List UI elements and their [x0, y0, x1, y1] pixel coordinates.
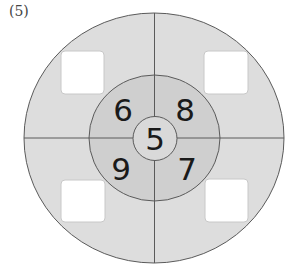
- inner-number-bottom-right: 7: [177, 151, 197, 187]
- inner-number-top-right: 8: [175, 92, 195, 128]
- answer-box-top-right[interactable]: [204, 51, 248, 94]
- number-wheel-diagram: 5 6 8 9 7: [0, 0, 290, 272]
- inner-number-top-left: 6: [113, 92, 133, 128]
- center-number: 5: [145, 121, 165, 157]
- inner-number-bottom-left: 9: [111, 151, 131, 187]
- answer-box-top-left[interactable]: [61, 51, 104, 94]
- answer-box-bottom-left[interactable]: [61, 180, 105, 222]
- answer-box-bottom-right[interactable]: [205, 179, 248, 222]
